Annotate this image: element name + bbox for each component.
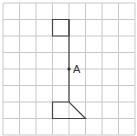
point-a-label: A (73, 63, 81, 75)
top-square (53, 20, 70, 37)
point-a-marker (67, 67, 70, 70)
grid-diagram: A (0, 0, 137, 136)
